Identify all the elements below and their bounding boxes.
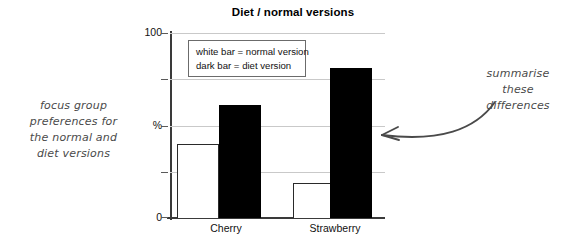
chart-legend: white bar = normal version dark bar = di… <box>188 40 306 77</box>
gridline-100 <box>170 33 385 34</box>
bar-cherry-diet[interactable] <box>219 105 261 218</box>
annotation-arrow-icon <box>370 100 500 170</box>
y-tick-label-100: 100 <box>144 26 162 38</box>
bar-strawberry-normal[interactable] <box>293 183 335 218</box>
y-tick-0 <box>161 217 168 218</box>
x-axis-category-labels: Cherry Strawberry <box>170 222 385 242</box>
legend-entry-normal: white bar = normal version <box>196 45 298 59</box>
legend-entry-diet: dark bar = diet version <box>196 59 298 73</box>
bar-strawberry-diet[interactable] <box>330 68 372 218</box>
x-label-strawberry: Strawberry <box>310 222 361 234</box>
x-label-cherry: Cherry <box>210 222 242 234</box>
chart-figure: Diet / normal versions 100 % 0 Cherry St… <box>0 0 566 250</box>
y-tick-50 <box>161 126 168 127</box>
annotation-left-note: focus group preferences for the normal a… <box>6 98 141 162</box>
y-tick-100 <box>161 33 168 34</box>
y-tick-25 <box>161 172 168 173</box>
bar-cherry-normal[interactable] <box>177 144 219 218</box>
chart-title: Diet / normal versions <box>168 6 418 18</box>
y-tick-75 <box>161 79 168 80</box>
y-axis-label-percent: % <box>153 119 162 131</box>
